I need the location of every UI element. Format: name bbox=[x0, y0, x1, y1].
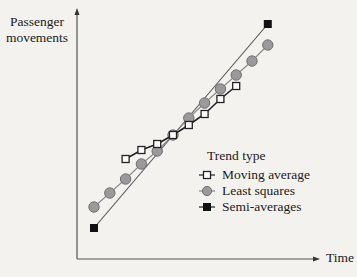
open-square-marker-icon bbox=[217, 96, 224, 103]
open-square-marker-icon bbox=[201, 111, 208, 118]
circle-marker-icon bbox=[89, 202, 99, 212]
filled-square-marker-icon bbox=[198, 201, 216, 213]
y-axis-label-line2: movements bbox=[0, 30, 74, 46]
open-square-marker-icon bbox=[138, 147, 145, 154]
legend-label: Semi-averages bbox=[222, 199, 301, 215]
legend-label: Least squares bbox=[222, 183, 295, 199]
open-square-marker-icon bbox=[185, 122, 192, 129]
circle-marker-icon bbox=[231, 70, 241, 80]
circle-marker-icon bbox=[215, 84, 225, 94]
axes bbox=[75, 8, 321, 262]
filled-square-marker-icon bbox=[90, 224, 98, 232]
open-square-marker-icon bbox=[198, 169, 216, 181]
legend-item-least-squares: Least squares bbox=[198, 183, 310, 199]
y-axis-arrow-icon bbox=[75, 8, 80, 15]
legend-item-moving-average: Moving average bbox=[198, 167, 310, 183]
y-axis-label-line1: Passenger bbox=[0, 14, 74, 30]
x-axis-label: Time bbox=[326, 250, 354, 266]
legend-label: Moving average bbox=[222, 167, 310, 183]
circle-marker-icon bbox=[120, 174, 130, 184]
legend: Trend type Moving average Least squares … bbox=[198, 148, 310, 215]
circle-marker-icon bbox=[263, 40, 273, 50]
open-square-marker-icon bbox=[233, 83, 240, 90]
legend-title: Trend type bbox=[207, 148, 310, 164]
y-axis-label: Passenger movements bbox=[0, 14, 74, 46]
filled-square-marker-icon bbox=[264, 20, 272, 28]
open-square-marker-icon bbox=[122, 156, 129, 163]
x-axis-arrow-icon bbox=[313, 257, 320, 262]
circle-marker-icon bbox=[136, 159, 146, 169]
open-square-marker-icon bbox=[154, 141, 161, 148]
open-square-marker-icon bbox=[170, 132, 177, 139]
circle-marker-icon bbox=[247, 56, 257, 66]
grey-circle-marker-icon bbox=[198, 185, 216, 197]
circle-marker-icon bbox=[199, 98, 209, 108]
circle-marker-icon bbox=[105, 188, 115, 198]
legend-item-semi-averages: Semi-averages bbox=[198, 199, 310, 215]
